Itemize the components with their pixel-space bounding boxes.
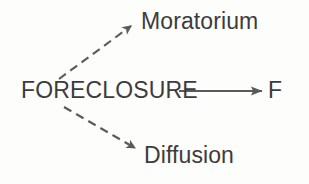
node-label-moratorium: Moratorium [141,10,258,33]
node-label-diffusion: Diffusion [144,144,234,167]
node-label-foreclosure: FORECLOSURE [21,79,198,102]
diagram-canvas: FORECLOSURE Moratorium Diffusion F [0,0,309,184]
node-label-f: F [268,79,282,102]
edge-foreclosure-moratorium [59,26,131,79]
edge-foreclosure-diffusion [64,107,135,148]
